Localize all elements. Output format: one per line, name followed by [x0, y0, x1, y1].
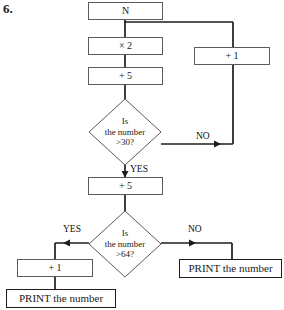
edge-label-decision64-yes: YES [63, 224, 81, 234]
node-print-left: PRINT the number [6, 289, 116, 308]
node-plus-one-left: + 1 [17, 259, 93, 277]
flowchart-canvas: 6. [0, 0, 284, 310]
edge-label-decision30-no: NO [196, 131, 210, 141]
node-decision-greater-64: Is the number >64? [89, 211, 161, 277]
node-start: N [88, 2, 163, 20]
edge-label-decision64-no: NO [188, 224, 202, 234]
node-plus-one-right: + 1 [194, 47, 270, 65]
node-times-two: × 2 [88, 37, 163, 55]
node-plus-five-first: + 5 [88, 67, 163, 85]
edge-label-decision30-yes: YES [130, 164, 148, 174]
node-plus-five-second: + 5 [88, 177, 163, 195]
node-decision-greater-30: Is the number >30? [89, 99, 161, 165]
node-print-right: PRINT the number [179, 259, 282, 278]
